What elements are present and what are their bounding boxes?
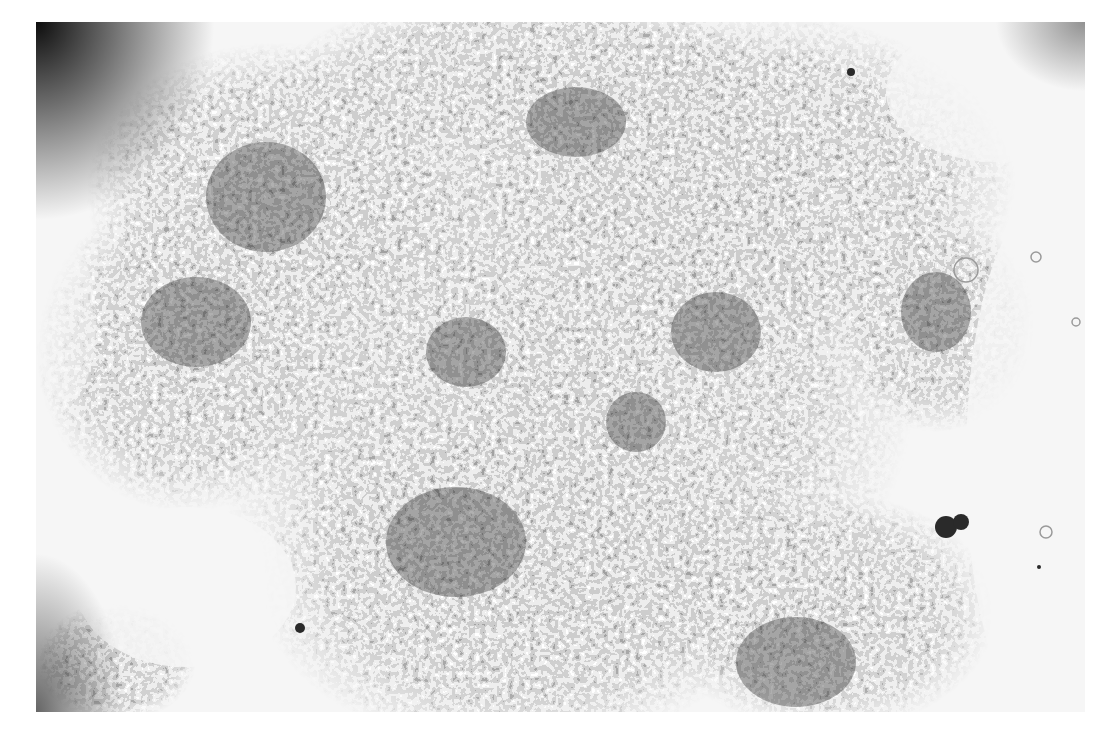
cell-texture (36, 22, 1085, 712)
microscopy-image (36, 22, 1085, 712)
page (0, 0, 1110, 739)
